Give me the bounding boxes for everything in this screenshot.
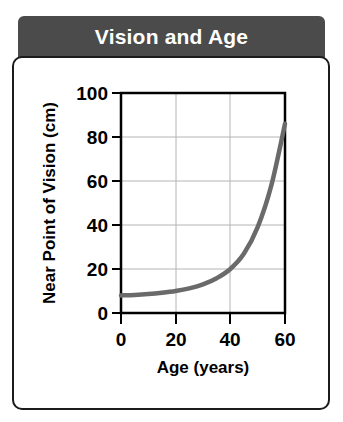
chart-figure: Vision and Age 100 80 60 4 [0, 0, 343, 422]
chart-title-bar: Vision and Age [18, 16, 325, 58]
chart-card [12, 56, 330, 410]
chart-title: Vision and Age [95, 25, 248, 49]
